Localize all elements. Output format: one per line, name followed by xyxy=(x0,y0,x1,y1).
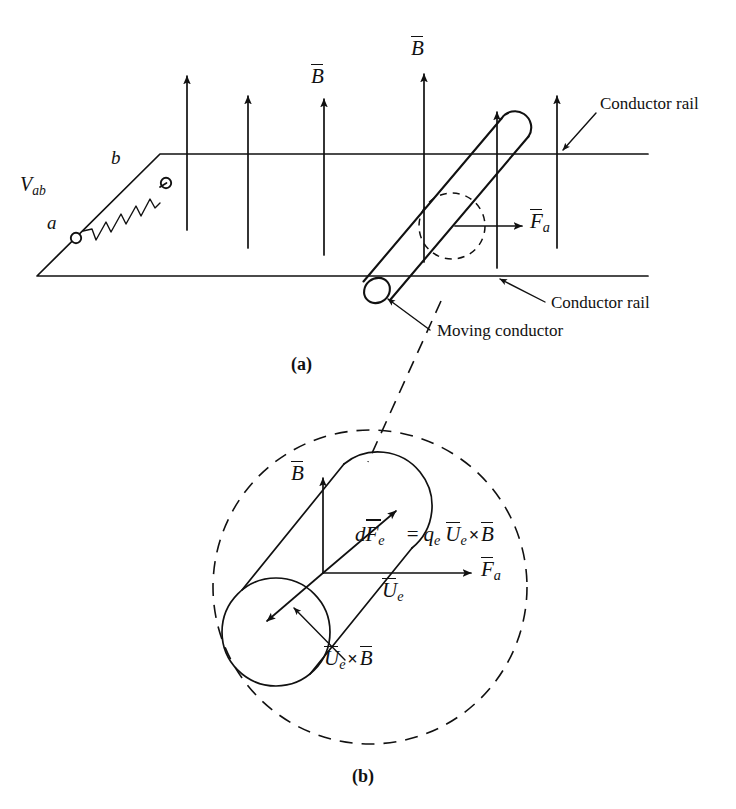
panel-b-caption: (b) xyxy=(352,767,374,785)
conductor-rail-top-label: Conductor rail xyxy=(600,95,699,112)
equation-b: B xyxy=(481,524,494,545)
voltage-label: Vab xyxy=(20,174,46,197)
conductor-rail-bottom-leader xyxy=(500,279,545,302)
electron-force-equation: dFe=qeUe×B xyxy=(355,524,494,547)
applied-force-label-a: Fa xyxy=(530,211,550,234)
rod-cap-top xyxy=(502,111,532,136)
applied-force-label-detail: Fa xyxy=(481,559,501,582)
equation-dF-term: dFe xyxy=(355,522,385,546)
panel-a-caption: (a) xyxy=(291,355,312,373)
magnification-circle xyxy=(213,430,527,744)
resistor-symbol xyxy=(71,178,171,243)
panel-b-drawing xyxy=(213,430,527,744)
terminal-a-label: a xyxy=(47,213,57,232)
panel-link-dashed-line xyxy=(368,301,441,462)
moving-conductor-leader xyxy=(388,299,430,330)
equation-velocity: U xyxy=(445,524,460,545)
panel-a-drawing xyxy=(37,74,648,330)
u-cross-b-label: Ue×B xyxy=(324,648,373,671)
conductor-rail-bottom-label: Conductor rail xyxy=(551,294,650,311)
figure-drawing xyxy=(0,0,736,809)
terminal-a-node xyxy=(71,233,81,243)
equation-cross: × xyxy=(467,525,481,545)
terminal-b-label: b xyxy=(111,148,121,167)
equation-charge: q xyxy=(424,522,435,546)
rod-cap-bottom xyxy=(359,273,395,309)
rod-edge-right xyxy=(391,137,529,300)
velocity-label-detail: Ue xyxy=(382,580,404,603)
moving-conductor-rod xyxy=(359,111,531,308)
vector-triad xyxy=(267,478,471,621)
conductor-rail-top-leader xyxy=(563,113,596,150)
equation-equals: = xyxy=(407,522,419,546)
b-field-arrow-group xyxy=(187,74,557,268)
moving-conductor-label: Moving conductor xyxy=(437,322,563,339)
figure-root: B B Fa Vab a b Conductor rail Conductor … xyxy=(0,0,736,809)
df-overbar xyxy=(366,519,381,521)
b-field-label-left: B xyxy=(311,66,324,87)
cylinder-cap-near xyxy=(222,578,330,686)
u-cross-b-vector xyxy=(267,573,323,621)
b-field-label-right: B xyxy=(411,38,424,59)
b-field-label-detail: B xyxy=(291,463,304,484)
